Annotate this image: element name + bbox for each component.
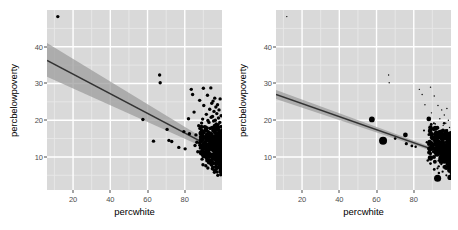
y-axis-ticks-right: 10203040	[250, 10, 276, 190]
data-point	[190, 88, 193, 91]
data-point	[442, 125, 443, 126]
data-point	[442, 165, 446, 169]
data-point	[56, 15, 59, 18]
data-point	[388, 74, 389, 75]
data-point	[430, 135, 435, 140]
data-point	[439, 118, 440, 119]
data-point	[216, 147, 219, 150]
data-point	[442, 158, 447, 163]
data-point	[437, 133, 440, 136]
data-point	[419, 89, 420, 90]
data-point	[210, 162, 213, 165]
data-point	[192, 110, 195, 113]
data-point	[205, 134, 208, 137]
data-point	[211, 157, 214, 160]
data-point	[431, 112, 432, 113]
data-point	[379, 137, 387, 145]
data-point	[217, 108, 220, 111]
data-point	[152, 139, 155, 142]
plot-canvas	[47, 10, 222, 190]
data-point	[193, 144, 196, 147]
data-point	[441, 109, 442, 110]
data-point	[443, 122, 446, 125]
data-point	[158, 81, 161, 84]
data-point	[388, 82, 389, 83]
data-point	[410, 144, 413, 147]
data-point	[216, 103, 219, 106]
data-point	[437, 105, 438, 106]
data-point	[165, 128, 168, 131]
plot-area-right	[276, 10, 451, 190]
data-point	[217, 116, 220, 119]
y-tick-label: 40	[35, 42, 43, 51]
data-point	[201, 117, 204, 120]
facet-panel-right: percbelowpoverty 10203040 20406080 percw…	[229, 0, 458, 230]
data-point	[445, 174, 447, 176]
data-point	[158, 73, 161, 76]
data-point	[202, 135, 205, 138]
data-point	[426, 117, 431, 122]
data-point	[442, 153, 446, 157]
y-axis-title-left: percbelowpoverty	[4, 10, 22, 190]
x-tick-mark	[184, 190, 185, 193]
x-tick-label: 40	[335, 195, 343, 204]
data-point	[202, 87, 205, 90]
data-point	[445, 153, 450, 158]
data-point	[202, 147, 205, 150]
data-point	[201, 131, 204, 134]
data-point	[433, 160, 437, 164]
x-tick-label: 80	[181, 195, 189, 204]
data-point	[217, 126, 220, 129]
figure-root: percbelowpoverty 10203040 20406080 percw…	[0, 0, 458, 230]
data-point	[435, 128, 438, 131]
data-point	[203, 151, 206, 154]
plot-area-left	[47, 10, 222, 190]
data-point	[434, 175, 441, 182]
data-point	[191, 93, 194, 96]
data-point	[201, 138, 204, 141]
data-point	[213, 96, 216, 99]
data-point	[216, 174, 219, 177]
y-tick-label: 10	[264, 152, 272, 161]
x-tick-mark	[376, 190, 377, 193]
data-point	[170, 140, 173, 143]
data-point	[218, 97, 221, 100]
data-point	[441, 128, 445, 132]
data-point	[448, 120, 449, 121]
data-point	[187, 117, 190, 120]
data-point	[441, 145, 443, 147]
scatter-points	[56, 15, 222, 177]
x-tick-label: 20	[69, 195, 77, 204]
data-point	[198, 99, 201, 102]
y-axis-title-right: percbelowpoverty	[233, 10, 251, 190]
x-tick-mark	[339, 190, 340, 193]
data-point	[286, 16, 287, 17]
x-tick-label: 80	[410, 195, 418, 204]
data-point	[205, 113, 208, 116]
data-point	[206, 119, 209, 122]
facet-panel-left: percbelowpoverty 10203040 20406080 percw…	[0, 0, 229, 230]
data-point	[434, 95, 435, 96]
data-point	[209, 143, 212, 146]
data-point	[445, 132, 450, 137]
data-point	[198, 127, 201, 130]
data-point	[206, 166, 209, 169]
data-point	[212, 110, 215, 113]
data-point	[141, 118, 144, 121]
data-point	[369, 117, 375, 123]
data-point	[217, 134, 220, 137]
data-point	[209, 86, 212, 89]
data-point	[198, 141, 201, 144]
data-point	[405, 142, 408, 145]
data-point	[403, 133, 408, 138]
data-point	[427, 133, 430, 136]
data-point	[446, 108, 447, 109]
data-point	[423, 129, 425, 131]
data-point	[434, 149, 439, 154]
data-point	[444, 114, 445, 115]
data-point	[438, 165, 440, 167]
x-tick-mark	[73, 190, 74, 193]
data-point	[200, 121, 203, 124]
data-point	[188, 132, 191, 135]
data-point	[430, 86, 431, 87]
